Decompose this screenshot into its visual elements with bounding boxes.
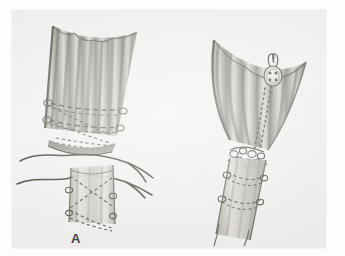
panel-b-illustration [172,10,326,248]
panel-a: A [12,10,177,248]
illustration-plate: A [12,10,326,248]
panel-label-a: A [71,232,81,245]
figure-root: A [0,0,345,256]
flared-proximal-segment-a [45,24,137,137]
distal-tube-segment-b [214,156,268,246]
panel-a-illustration [12,10,177,248]
flared-proximal-segment-b [212,38,306,150]
distal-tube-segment-a [65,164,116,231]
button-bolster-b [264,54,282,86]
panel-b: B [172,10,326,248]
